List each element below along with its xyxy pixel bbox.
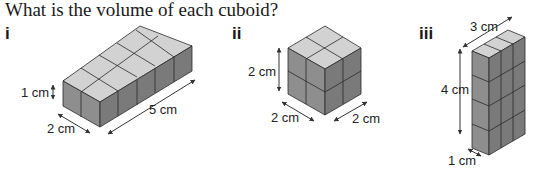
cuboid-ii (288, 26, 361, 115)
cuboid-iii (472, 30, 525, 155)
dim-i-length: 5 cm (149, 102, 177, 117)
dim-ii-height: 2 cm (248, 64, 276, 79)
dim-ii-width: 2 cm (271, 110, 299, 125)
dim-i-height: 1 cm (21, 85, 49, 100)
dim-iii-depth: 1 cm (448, 153, 476, 168)
dim-iii-height: 4 cm (441, 82, 469, 97)
cuboid-figures: 1 cm 2 cm 5 cm 2 cm 2 cm 2 cm (0, 0, 545, 170)
dim-ii-length: 2 cm (352, 111, 380, 126)
dim-iii-width: 3 cm (470, 19, 498, 34)
dim-i-width: 2 cm (47, 121, 75, 136)
